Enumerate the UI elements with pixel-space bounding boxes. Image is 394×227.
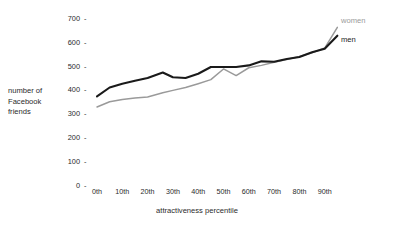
series-line-men [97, 36, 337, 97]
chart-container: number of Facebook friends 700-600-500-4… [0, 0, 394, 227]
legend-label-men: men [341, 35, 356, 44]
plot-area [0, 0, 394, 227]
legend-label-women: women [341, 16, 365, 25]
